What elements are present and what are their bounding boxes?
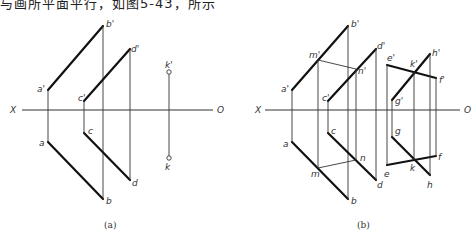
line-ab — [292, 142, 348, 199]
label-d1: d' — [131, 44, 139, 54]
figure-b: X O a' b' m' n' c' d' a — [254, 19, 471, 230]
label-e1: e' — [387, 53, 395, 63]
label-k1: k' — [165, 60, 173, 70]
line-c1d1 — [84, 49, 130, 101]
label-b1: b' — [351, 19, 359, 29]
point-k — [167, 156, 171, 160]
caption-b: (b) — [357, 220, 370, 230]
axis-label-x: X — [254, 105, 262, 115]
label-g: g — [395, 126, 401, 136]
label-h: h — [427, 180, 433, 190]
projection-diagrams: X O a' b' c' d' a b c d k' k (a) X O — [0, 0, 475, 238]
label-m1: m' — [309, 50, 320, 60]
label-c1: c' — [78, 93, 85, 103]
label-b: b — [351, 196, 357, 206]
label-n: n — [360, 153, 366, 163]
label-d: d — [132, 178, 138, 188]
axis-label-o: O — [217, 105, 224, 115]
label-g1: g' — [395, 96, 403, 106]
label-a1: a' — [281, 84, 289, 94]
figure-a: X O a' b' c' d' a b c d k' k (a) — [9, 19, 224, 230]
label-k: k — [165, 162, 171, 172]
line-cd — [84, 133, 130, 180]
label-c: c — [88, 126, 93, 136]
label-a: a — [283, 139, 289, 149]
label-d1: d' — [377, 41, 385, 51]
label-n1: n' — [358, 66, 366, 76]
line-ab — [48, 142, 103, 199]
label-h1: h' — [432, 48, 440, 58]
label-a1: a' — [37, 84, 45, 94]
label-f: f — [438, 152, 443, 162]
label-b: b — [106, 196, 112, 206]
label-d: d — [377, 180, 383, 190]
label-e: e — [384, 169, 390, 179]
line-c1d1 — [328, 49, 376, 101]
label-f1: f' — [439, 75, 445, 85]
line-m1n1 — [318, 60, 356, 69]
label-c: c — [331, 126, 336, 136]
axis-label-x: X — [9, 105, 17, 115]
label-m: m — [311, 169, 320, 179]
line-mn — [318, 160, 356, 168]
label-b1: b' — [106, 19, 114, 29]
axis-label-o: O — [464, 105, 471, 115]
line-cd — [328, 133, 376, 180]
point-k1 — [167, 70, 171, 74]
caption-a: (a) — [104, 220, 116, 230]
label-k: k — [410, 163, 416, 173]
label-k1: k' — [410, 59, 418, 69]
line-a1b1 — [48, 26, 103, 90]
label-a: a — [39, 138, 45, 148]
label-c1: c' — [322, 93, 329, 103]
